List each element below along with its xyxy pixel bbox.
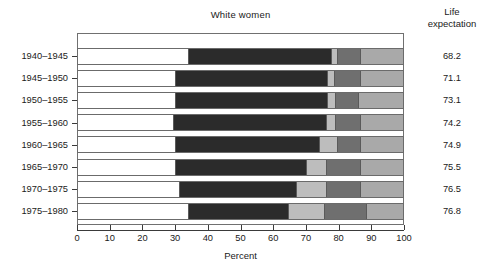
bar-segment-5 <box>361 71 403 86</box>
x-axis-tick <box>404 225 405 230</box>
y-axis-label: 1950–1955 <box>0 95 68 105</box>
life-expectation-value: 74.9 <box>414 140 490 150</box>
stacked-bar <box>77 92 404 109</box>
bar-segment-5 <box>361 49 403 64</box>
life-expectation-value: 76.8 <box>414 206 490 216</box>
y-axis-label: 1940–1945 <box>0 51 68 61</box>
life-expectation-value: 75.5 <box>414 162 490 172</box>
bar-segment-2 <box>189 49 332 64</box>
stacked-bar <box>77 203 404 220</box>
stacked-bar <box>77 70 404 87</box>
bar-row <box>77 48 404 65</box>
bar-segment-5 <box>359 93 403 108</box>
x-axis-tick <box>306 225 307 230</box>
bar-segment-1 <box>78 71 176 86</box>
bar-row <box>77 92 404 109</box>
bar-segment-2 <box>176 137 321 152</box>
x-axis-tick <box>175 225 176 230</box>
life-expectation-value: 71.1 <box>414 73 490 83</box>
bar-segment-1 <box>78 49 189 64</box>
bar-segment-4 <box>338 49 361 64</box>
stacked-bar <box>77 159 404 176</box>
bar-segment-2 <box>176 71 329 86</box>
bar-segment-3 <box>327 115 337 130</box>
bar-segment-3 <box>320 137 338 152</box>
life-expectation-value: 68.2 <box>414 51 490 61</box>
stacked-bar <box>77 114 404 131</box>
bar-segment-3 <box>328 93 336 108</box>
y-axis-label: 1970–1975 <box>0 184 68 194</box>
life-expectation-column-header: Life expectation <box>414 6 490 29</box>
bar-row <box>77 159 404 176</box>
bar-segment-3 <box>307 160 327 175</box>
stacked-bar <box>77 181 404 198</box>
y-axis-tick <box>72 211 77 212</box>
bar-segment-1 <box>78 160 176 175</box>
bar-segment-4 <box>338 137 361 152</box>
y-axis-label: 1960–1965 <box>0 140 68 150</box>
bar-segment-5 <box>361 115 403 130</box>
life-expectation-value: 73.1 <box>414 95 490 105</box>
life-expectation-header-line2: expectation <box>414 18 490 30</box>
bar-segment-4 <box>336 115 360 130</box>
bar-segment-4 <box>336 93 359 108</box>
x-axis-tick <box>273 225 274 230</box>
stacked-bar <box>77 48 404 65</box>
bar-segment-3 <box>297 182 326 197</box>
bar-segment-1 <box>78 204 189 219</box>
y-axis-label: 1965–1970 <box>0 162 68 172</box>
bar-segment-5 <box>361 137 403 152</box>
y-axis-tick <box>72 145 77 146</box>
bar-segment-4 <box>325 204 367 219</box>
life-expectation-header-line1: Life <box>414 6 490 18</box>
life-expectation-value: 76.5 <box>414 184 490 194</box>
x-axis-line <box>77 230 404 231</box>
bar-segment-4 <box>335 71 361 86</box>
bar-segment-1 <box>78 137 176 152</box>
bar-segment-3 <box>289 204 325 219</box>
bar-segment-1 <box>78 182 180 197</box>
bar-segment-5 <box>367 204 403 219</box>
x-axis-tick <box>77 225 78 230</box>
x-axis-tick <box>339 225 340 230</box>
stacked-bar <box>77 136 404 153</box>
bar-segment-1 <box>78 115 174 130</box>
y-axis-tick <box>72 123 77 124</box>
x-axis-title: Percent <box>77 250 404 261</box>
bar-segment-4 <box>327 182 361 197</box>
y-axis-label: 1975–1980 <box>0 206 68 216</box>
life-expectation-value: 74.2 <box>414 118 490 128</box>
bar-segment-2 <box>174 115 327 130</box>
bar-segment-2 <box>176 160 308 175</box>
x-axis-tick <box>241 225 242 230</box>
bar-row <box>77 181 404 198</box>
bar-segment-2 <box>176 93 329 108</box>
chart-figure: White women Life expectation 1940–194519… <box>0 0 493 276</box>
bar-row <box>77 136 404 153</box>
bar-segment-5 <box>361 182 403 197</box>
bar-segment-1 <box>78 93 176 108</box>
y-axis-tick <box>72 78 77 79</box>
x-axis-tick <box>142 225 143 230</box>
y-axis-tick <box>72 100 77 101</box>
y-axis-tick <box>72 167 77 168</box>
chart-title: White women <box>77 9 404 20</box>
bar-row <box>77 70 404 87</box>
x-axis-tick <box>208 225 209 230</box>
y-axis-tick <box>72 56 77 57</box>
bar-segment-2 <box>189 204 290 219</box>
y-axis-label: 1945–1950 <box>0 73 68 83</box>
x-axis-tick <box>110 225 111 230</box>
x-axis-tick-label: 100 <box>384 233 424 243</box>
bar-segment-4 <box>327 160 361 175</box>
bar-segment-2 <box>180 182 297 197</box>
bar-row <box>77 114 404 131</box>
y-axis-label: 1955–1960 <box>0 118 68 128</box>
y-axis-tick <box>72 189 77 190</box>
bar-segment-5 <box>361 160 403 175</box>
bar-row <box>77 203 404 220</box>
x-axis-tick <box>371 225 372 230</box>
